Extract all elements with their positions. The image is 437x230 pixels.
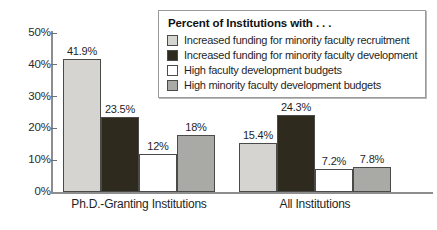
legend-swatch-icon [167,80,178,91]
bar [277,115,315,192]
legend-item-label: High faculty development budgets [184,64,342,76]
bar [239,143,277,192]
legend-item-label: Increased funding for minority faculty d… [184,49,417,61]
legend-swatch-icon [167,65,178,76]
bar [177,135,215,192]
legend-swatch-icon [167,35,178,46]
bar-value-label: 15.4% [233,129,283,141]
bar [139,154,177,192]
legend: Percent of Institutions with . . . Incre… [158,10,426,98]
legend-item: Increased funding for minority faculty d… [167,48,419,62]
legend-item: High minority faculty development budget… [167,78,419,92]
legend-item-label: Increased funding for minority faculty r… [184,34,409,46]
legend-swatch-icon [167,50,178,61]
legend-item: Increased funding for minority faculty r… [167,33,419,47]
bar [101,117,139,192]
legend-item: High faculty development budgets [167,63,419,77]
bar-chart: 0%10%20%30%40%50% 41.9%23.5%12%18%15.4%2… [0,0,437,230]
legend-title: Percent of Institutions with . . . [168,17,419,29]
bar [315,169,353,192]
bar-value-label: 18% [171,121,221,133]
legend-item-list: Increased funding for minority faculty r… [167,33,419,92]
bar [353,167,391,192]
bar-value-label: 41.9% [57,45,107,57]
legend-item-label: High minority faculty development budget… [184,79,381,91]
x-axis-category-label: All Institutions [209,197,421,211]
bar-value-label: 12% [133,140,183,152]
bar-value-label: 24.3% [271,101,321,113]
bar-value-label: 7.8% [347,153,397,165]
bar-value-label: 23.5% [95,103,145,115]
bar [63,59,101,192]
